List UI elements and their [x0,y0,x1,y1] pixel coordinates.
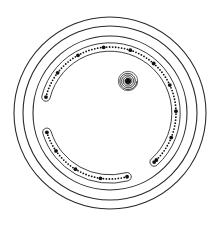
small-bead [121,47,123,49]
small-bead [120,177,122,179]
small-bead [85,51,87,53]
small-bead [165,147,167,149]
small-bead [158,157,160,159]
small-bead [53,148,55,150]
small-bead [114,178,116,180]
small-bead [159,69,161,71]
large-bead [45,130,49,134]
large-bead [169,136,173,140]
small-bead [67,61,69,63]
small-bead [111,178,113,180]
small-bead [97,47,99,49]
small-bead [127,48,129,50]
large-bead [102,45,106,49]
small-bead [94,176,96,178]
large-bead [44,95,48,99]
small-bead [55,74,57,76]
small-bead [148,59,150,61]
small-bead [70,165,72,167]
small-bead [61,157,63,159]
large-bead [128,48,132,52]
small-bead [85,174,87,176]
small-bead [112,46,114,48]
small-bead [97,177,99,179]
small-bead [91,49,93,51]
upper-arc-outline [42,43,180,166]
large-bead [56,71,60,75]
lower-arc-outline [43,128,132,183]
small-bead [46,93,48,95]
small-bead [175,119,177,121]
small-bead [175,116,177,118]
small-bead [70,59,72,61]
ring-3 [33,36,187,190]
small-bead [171,90,173,92]
small-bead [168,142,170,144]
small-bead [163,150,165,152]
small-bead [109,46,111,48]
small-bead [53,77,55,79]
small-bead [166,79,168,81]
small-bead [59,155,61,157]
small-bead [123,177,125,179]
small-bead [50,82,52,84]
small-bead [124,48,126,50]
small-bead [175,113,177,115]
large-bead [168,83,172,87]
small-bead [52,145,54,147]
small-bead [77,170,79,172]
small-bead [49,85,51,87]
small-bead [140,54,142,56]
small-bead [61,67,63,69]
small-bead [169,139,171,141]
small-bead [174,98,176,100]
bead-chains [44,45,178,180]
small-bead [175,104,177,106]
large-bead [125,175,129,179]
small-bead [118,47,120,49]
small-bead [163,74,165,76]
small-bead [94,48,96,50]
small-bead [173,128,175,130]
small-bead [88,50,90,52]
small-bead [80,53,82,55]
small-bead [91,176,93,178]
small-bead [63,159,65,161]
small-bead [47,90,49,92]
small-bead [48,88,50,90]
small-bead [157,67,159,69]
small-bead [175,107,177,109]
small-bead [150,61,152,63]
ring-1 [14,17,206,209]
small-bead [52,79,54,81]
large-bead [74,167,78,171]
small-bead [168,81,170,83]
small-bead [82,52,84,54]
small-bead [57,152,59,154]
spiral-core [125,78,131,84]
concentric-rings [14,17,206,209]
small-bead [174,125,176,127]
small-bead [49,140,51,142]
small-bead [103,178,105,180]
small-bead [63,65,65,67]
small-bead [80,171,82,173]
small-bead [172,131,174,133]
ring-2 [23,26,197,200]
small-bead [47,134,49,136]
small-bead [160,155,162,157]
large-bead [76,53,80,57]
concentric-ring-diagram [0,0,221,227]
spiral-icon [118,71,137,90]
small-bead [174,101,176,103]
small-bead [174,122,176,124]
small-bead [117,178,119,180]
small-bead [82,172,84,174]
diagram-stage [0,0,221,227]
small-bead [67,163,69,165]
small-bead [106,178,108,180]
small-bead [161,71,163,73]
large-bead [54,149,58,153]
small-bead [155,65,157,67]
small-bead [135,51,137,53]
